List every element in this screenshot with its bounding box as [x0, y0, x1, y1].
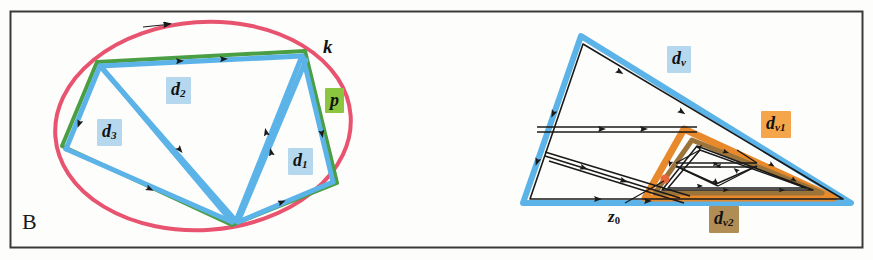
label-d1-base: d	[293, 150, 302, 170]
label-z0: z0	[608, 208, 620, 227]
label-d1: d1	[288, 148, 313, 175]
label-dv1-sub: v1	[775, 121, 786, 133]
label-d3-sub: 3	[111, 129, 117, 141]
left-diagram	[48, 12, 358, 240]
panel-letter: B	[22, 209, 37, 235]
label-d1-sub: 1	[302, 158, 308, 170]
label-d3-base: d	[102, 121, 111, 141]
label-dv2-sub: v2	[723, 216, 734, 228]
label-dv: dv	[667, 46, 691, 73]
label-dv2: dv2	[709, 206, 739, 233]
label-d2: d2	[166, 77, 191, 104]
figure-panel-b: B k p d2 d3 d1 dv dv1 dv2 z0	[0, 0, 873, 260]
arrow-dv-hyp-a	[604, 62, 620, 72]
label-d2-base: d	[171, 79, 180, 99]
label-dv-base: d	[672, 48, 681, 68]
label-d3: d3	[97, 119, 122, 146]
label-dv2-base: d	[714, 208, 723, 228]
label-dv1: dv1	[761, 111, 791, 138]
label-dv1-base: d	[766, 113, 775, 133]
label-z0-base: z	[608, 207, 615, 226]
label-p: p	[325, 88, 344, 113]
label-k: k	[323, 37, 333, 56]
label-dv-sub: v	[681, 56, 686, 68]
arrow-d1-innerlower	[271, 152, 276, 174]
ellipse-k	[48, 12, 358, 240]
figure-canvas	[0, 0, 873, 260]
label-d2-sub: 2	[180, 87, 186, 99]
label-z0-sub: 0	[615, 215, 620, 226]
cycle-d1	[238, 57, 333, 222]
label-p-text: p	[330, 90, 339, 110]
label-k-text: k	[323, 36, 333, 57]
